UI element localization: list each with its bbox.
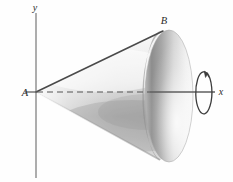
label-point-A: A xyxy=(21,87,29,98)
revolution-arrow-ellipse xyxy=(196,72,212,114)
label-point-B: B xyxy=(161,15,168,26)
y-axis-label: y xyxy=(32,2,38,13)
cone-revolution-figure: y xyxy=(0,0,233,182)
y-axis: y xyxy=(32,2,38,178)
x-axis-label: x xyxy=(218,86,224,97)
figure-canvas: y xyxy=(0,0,233,182)
revolution-arrowhead xyxy=(204,71,208,78)
